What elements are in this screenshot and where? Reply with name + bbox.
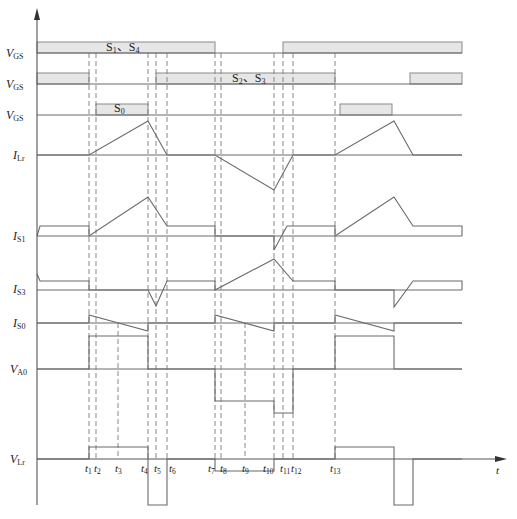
tick-t9: t9 [242, 462, 249, 476]
tick-t2: t2 [94, 462, 101, 476]
label-v-lr: VLr [10, 452, 25, 467]
tick-t4: t4 [141, 462, 148, 476]
tick-t1: t1 [85, 462, 92, 476]
axes [37, 14, 500, 505]
waveform-v-a0 [37, 336, 462, 413]
gate-name-s2s3: S2、S3 [232, 71, 265, 86]
label-i-lr: ILr [12, 148, 25, 163]
waveform-v-lr [37, 447, 462, 505]
tick-t10: t10 [263, 462, 274, 476]
tick-t3: t3 [115, 462, 122, 476]
gate-name-s1s4: S1、S4 [106, 40, 139, 55]
label-v-a0: VA0 [10, 362, 27, 377]
label-vgs-s1s4: VGS [6, 46, 24, 61]
label-i-s3: IS3 [12, 282, 25, 297]
baselines [37, 53, 462, 369]
time-tick-labels: t1 t2 t3 t4 t5 t6 t7 t8 t9 t10 t11 t12 t… [85, 462, 500, 476]
timing-diagram: VGS VGS VGS ILr IS1 IS3 IS0 VA0 VLr S1、S… [0, 0, 517, 519]
tick-t13: t13 [330, 462, 341, 476]
label-vgs-s2s3: VGS [6, 77, 24, 92]
tick-t6: t6 [169, 462, 176, 476]
gate-pulse-s1s4-2 [283, 42, 462, 53]
tick-t8: t8 [220, 462, 227, 476]
label-i-s0: IS0 [12, 316, 25, 331]
t-axis-label: t [496, 464, 500, 476]
tick-t5: t5 [154, 462, 161, 476]
t-axis-arrow-icon [495, 456, 507, 462]
row-labels: VGS VGS VGS ILr IS1 IS3 IS0 VA0 VLr [6, 46, 27, 467]
tick-t7: t7 [208, 462, 215, 476]
label-vgs-s0: VGS [6, 108, 24, 123]
label-i-s1: IS1 [12, 229, 25, 244]
gate-pulse-s0-2 [340, 104, 392, 115]
gate-pulse-s2s3-3 [410, 73, 462, 84]
tick-t11: t11 [280, 462, 291, 476]
y-axis-arrow-icon [34, 8, 40, 20]
waveform-i-s1 [37, 197, 462, 250]
tick-t12: t12 [291, 462, 302, 476]
gate-name-s0: S0 [114, 101, 125, 116]
waveform-i-s3 [37, 259, 462, 307]
timing-diagram-svg: VGS VGS VGS ILr IS1 IS3 IS0 VA0 VLr S1、S… [0, 0, 517, 519]
waveforms [37, 121, 462, 505]
gate-pulse-s2s3-1 [37, 73, 89, 84]
